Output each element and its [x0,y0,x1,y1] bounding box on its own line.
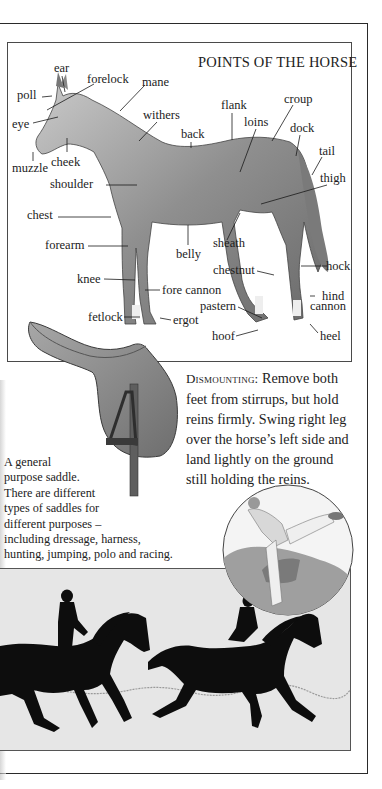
dismounting-inset-illustration [0,0,382,789]
